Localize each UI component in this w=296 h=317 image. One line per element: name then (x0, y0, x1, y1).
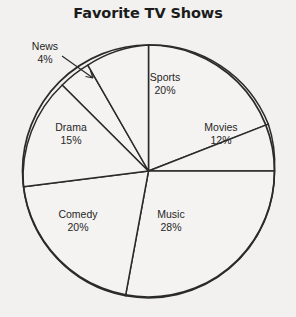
pie-slice-music[interactable] (126, 171, 275, 298)
slice-label-music-pct: 28% (140, 221, 202, 234)
slice-label-comedy: Comedy 20% (45, 208, 111, 234)
slice-label-movies-pct: 12% (190, 134, 252, 147)
slice-label-drama: Drama 15% (40, 121, 102, 147)
slice-label-news: News 4% (18, 40, 72, 66)
pie-chart-figure: Favorite TV Shows News 4% Sports 20% Mov… (0, 0, 296, 317)
slice-label-sports: Sports 20% (134, 71, 196, 97)
slice-label-sports-name: Sports (150, 71, 180, 83)
slice-label-drama-name: Drama (55, 121, 87, 133)
slice-label-comedy-name: Comedy (58, 208, 97, 220)
slice-label-news-pct: 4% (18, 53, 72, 66)
slice-label-movies: Movies 12% (190, 121, 252, 147)
slice-label-music-name: Music (157, 208, 184, 220)
slice-label-movies-name: Movies (204, 121, 237, 133)
slice-label-drama-pct: 15% (40, 134, 102, 147)
slice-label-music: Music 28% (140, 208, 202, 234)
slice-label-sports-pct: 20% (134, 84, 196, 97)
slice-label-news-name: News (32, 40, 58, 52)
slice-label-comedy-pct: 20% (45, 221, 111, 234)
